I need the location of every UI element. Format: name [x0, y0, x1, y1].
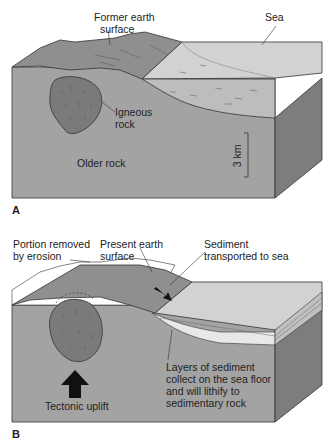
label-present-surface-1: Present earth [100, 239, 163, 251]
label-former-surface-2: surface [100, 24, 134, 36]
geology-diagram [0, 0, 326, 443]
label-layers-1: Layers of sediment [166, 362, 255, 374]
label-tectonic-uplift: Tectonic uplift [45, 401, 109, 413]
label-igneous-rock-2: rock [115, 119, 135, 131]
label-sea: Sea [265, 12, 284, 24]
label-sediment-2: transported to sea [204, 251, 289, 263]
scale-label: 3 km [232, 144, 244, 167]
label-layers-3: and will lithify to [166, 386, 240, 398]
label-older-rock: Older rock [77, 158, 125, 170]
panel-a-block [12, 26, 322, 198]
label-present-surface-2: surface [100, 251, 134, 263]
label-layers-4: sedimentary rock [166, 398, 246, 410]
label-igneous-rock-1: Igneous [115, 107, 152, 119]
label-portion-removed-2: by erosion [13, 251, 61, 263]
panel-b-letter: B [12, 428, 20, 440]
label-sediment-1: Sediment [204, 239, 248, 251]
label-portion-removed-1: Portion removed [13, 239, 90, 251]
label-former-surface-1: Former earth [94, 12, 155, 24]
panel-a-letter: A [12, 204, 20, 216]
label-layers-2: collect on the sea floor [166, 374, 271, 386]
